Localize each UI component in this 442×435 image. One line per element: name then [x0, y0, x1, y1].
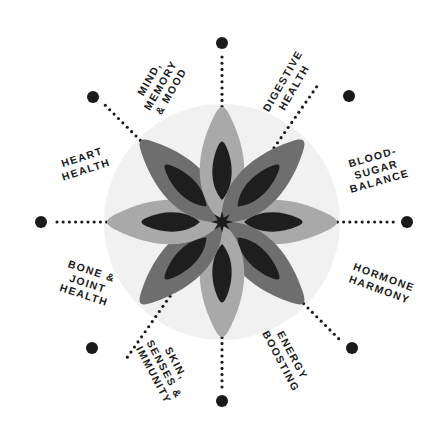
- spoke-dot: [93, 220, 96, 223]
- flower-graphic: [107, 107, 337, 337]
- spoke-dot: [117, 117, 120, 120]
- spoke-dot: [220, 354, 223, 357]
- spoke-dot: [294, 116, 297, 119]
- spoke-dot: [130, 130, 133, 133]
- spoke-dot: [315, 315, 318, 318]
- spoke-dot: [220, 348, 223, 351]
- spoke-dot: [129, 351, 132, 354]
- spoke-dot: [140, 335, 143, 338]
- spoke-dot: [320, 320, 323, 323]
- spoke-dot: [99, 220, 102, 223]
- spoke-dot: [154, 315, 157, 318]
- endpoint-dot-digestive-health[interactable]: [343, 90, 355, 102]
- spoke-dot: [80, 220, 83, 223]
- spoke-dot: [161, 305, 164, 308]
- spoke-dot: [220, 86, 223, 89]
- spoke-dot: [385, 220, 388, 223]
- spoke-dot: [220, 361, 223, 364]
- spoke-dot: [354, 220, 357, 223]
- spoke-dot: [144, 330, 147, 333]
- spoke-dot: [308, 95, 311, 98]
- spoke-dot: [297, 111, 300, 114]
- spoke-dot: [220, 373, 223, 376]
- spoke-dot: [337, 337, 340, 340]
- spoke-dot: [315, 85, 318, 88]
- spoke-dot: [220, 367, 223, 370]
- spoke-dot: [328, 328, 331, 331]
- endpoint-dot-heart-health[interactable]: [87, 91, 99, 103]
- spoke-dot: [220, 385, 223, 388]
- spoke-dot: [220, 74, 223, 77]
- spoke-dot: [121, 121, 124, 124]
- spoke-dot: [276, 141, 279, 144]
- spoke-dot: [348, 220, 351, 223]
- spoke-dot: [220, 68, 223, 71]
- spoke-dot: [311, 311, 314, 314]
- spoke-dot: [220, 99, 223, 102]
- spoke-dot: [104, 104, 107, 107]
- spoke-dot: [126, 126, 129, 129]
- spoke-dot: [134, 134, 137, 137]
- spoke-dot: [379, 220, 382, 223]
- spoke-dot: [126, 356, 129, 359]
- spoke-dot: [86, 220, 89, 223]
- spoke-dot: [74, 220, 77, 223]
- spoke-dot: [283, 131, 286, 134]
- spoke-dot: [113, 113, 116, 116]
- spoke-dot: [367, 220, 370, 223]
- spoke-dot: [290, 121, 293, 124]
- spoke-dot: [158, 310, 161, 313]
- spoke-dot: [220, 342, 223, 345]
- spoke-dot: [151, 320, 154, 323]
- spoke-dot: [147, 325, 150, 328]
- spoke-dot: [62, 220, 65, 223]
- spoke-dot: [287, 126, 290, 129]
- spoke-dot: [361, 220, 364, 223]
- spoke-dot: [220, 62, 223, 65]
- center-star: [211, 211, 233, 233]
- spoke-dot: [220, 55, 223, 58]
- spoke-dot: [68, 220, 71, 223]
- spoke-dot: [301, 106, 304, 109]
- endpoint-dot-mind-memory-mood[interactable]: [216, 37, 228, 49]
- spoke-dot: [108, 108, 111, 111]
- spoke-dot: [312, 90, 315, 93]
- endpoint-dot-hormone-harmony[interactable]: [346, 342, 358, 354]
- spoke-dot: [220, 93, 223, 96]
- spoke-dot: [280, 136, 283, 139]
- spoke-dot: [55, 220, 58, 223]
- diagram-canvas: [0, 0, 442, 435]
- spoke-dot: [306, 306, 309, 309]
- spoke-dot: [220, 80, 223, 83]
- endpoint-dot-skin-senses-immunity[interactable]: [86, 342, 98, 354]
- spoke-dot: [220, 379, 223, 382]
- endpoint-dot-energy-boosting[interactable]: [216, 395, 228, 407]
- spoke-dot: [304, 101, 307, 104]
- radial-benefits-diagram: MIND,MEMORY& MOODDIGESTIVEHEALTHBLOOD-SU…: [0, 0, 442, 435]
- spoke-dot: [136, 340, 139, 343]
- spoke-dot: [392, 220, 395, 223]
- endpoint-dot-blood-sugar-balance[interactable]: [401, 216, 413, 228]
- spoke-dot: [165, 300, 168, 303]
- spoke-dot: [342, 220, 345, 223]
- endpoint-dot-bone-joint-health[interactable]: [35, 216, 47, 228]
- spoke-dot: [373, 220, 376, 223]
- spoke-dot: [333, 333, 336, 336]
- spoke-dot: [324, 324, 327, 327]
